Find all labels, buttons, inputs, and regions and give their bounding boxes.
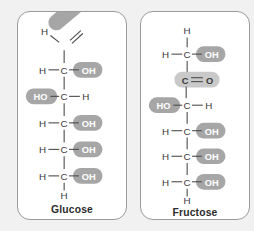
glucose-c2-right-atom: OH — [82, 66, 96, 76]
glucose-c1-left-bond — [50, 35, 59, 42]
glucose-terminal-bottom-atom: H — [61, 190, 68, 201]
glucose-c1-center-atom: C — [61, 38, 68, 48]
glucose-row-2: H C OH — [39, 62, 102, 78]
fructose-c1-center-atom: C — [184, 49, 191, 60]
fructose-c6-center-atom: C — [184, 177, 191, 188]
glucose-c1-double-bond-a — [70, 31, 81, 41]
glucose-c2-center-atom: C — [61, 65, 68, 76]
fructose-c5-left-atom: H — [162, 151, 169, 162]
fructose-c4-right-atom: OH — [205, 127, 219, 137]
glucose-c5-left-atom: H — [39, 144, 46, 155]
fructose-caption: Fructose — [172, 207, 217, 218]
glucose-c5-center-atom: C — [61, 144, 68, 155]
fructose-terminal-top-atom: H — [184, 25, 191, 36]
fructose-row-5: H C OH — [162, 148, 225, 164]
fructose-row-2-ketone: C O — [174, 72, 219, 88]
glucose-c6-left-atom: H — [39, 171, 46, 182]
fructose-c4-left-atom: H — [162, 126, 169, 137]
glucose-row-6: H C OH — [39, 168, 102, 184]
fructose-c3-left-atom: HO — [157, 101, 171, 111]
glucose-c4-center-atom: C — [61, 118, 68, 129]
fructose-c5-center-atom: C — [184, 151, 191, 162]
glucose-aldehyde-highlight — [45, 12, 88, 34]
glucose-structure: H C O H C OH — [18, 12, 126, 219]
fructose-c5-right-atom: OH — [205, 152, 219, 162]
panel-fructose: H H C OH C O — [140, 11, 250, 220]
glucose-c1-double-bond-b — [72, 34, 83, 44]
fructose-c6-left-atom: H — [162, 177, 169, 188]
fructose-c3-center-atom: C — [184, 100, 191, 111]
glucose-c6-center-atom: C — [61, 171, 68, 182]
fructose-row-3: HO C H — [149, 97, 212, 113]
glucose-caption: Glucose — [51, 204, 93, 215]
fructose-c2-center-atom: C — [182, 76, 189, 86]
glucose-c2-left-atom: H — [39, 65, 46, 76]
fructose-c1-left-atom: H — [162, 49, 169, 60]
fructose-structure: H H C OH C O — [141, 12, 249, 219]
fructose-c6-right-atom: OH — [205, 178, 219, 188]
fructose-c1-right-atom: OH — [205, 50, 219, 60]
glucose-c1-left-atom: H — [41, 26, 48, 37]
glucose-row-3: HO C H — [26, 89, 89, 105]
fructose-terminal-bottom-atom: H — [184, 195, 191, 206]
glucose-c4-left-atom: H — [39, 118, 46, 129]
fructose-row-4: H C OH — [162, 123, 225, 139]
fructose-c3-right-atom: H — [205, 100, 212, 111]
fructose-row-6: H C OH — [162, 174, 225, 190]
glucose-c4-right-atom: OH — [82, 119, 96, 129]
carbohydrate-isomer-figure: H C O H C OH — [0, 0, 254, 231]
glucose-c3-left-atom: HO — [34, 92, 48, 102]
glucose-c5-right-atom: OH — [82, 145, 96, 155]
glucose-row-5: H C OH — [39, 142, 102, 158]
fructose-c2-right-atom: O — [206, 76, 213, 86]
glucose-c1-right-atom: O — [85, 22, 92, 32]
fructose-c4-center-atom: C — [184, 126, 191, 137]
glucose-c3-right-atom: H — [82, 91, 89, 102]
glucose-svg: H C O H C OH — [18, 12, 126, 219]
fructose-row-1: H C OH — [162, 46, 225, 62]
fructose-svg: H H C OH C O — [141, 12, 249, 219]
glucose-c3-center-atom: C — [61, 91, 68, 102]
glucose-row-4: H C OH — [39, 115, 102, 131]
panel-glucose: H C O H C OH — [17, 11, 127, 220]
glucose-c6-right-atom: OH — [82, 172, 96, 182]
